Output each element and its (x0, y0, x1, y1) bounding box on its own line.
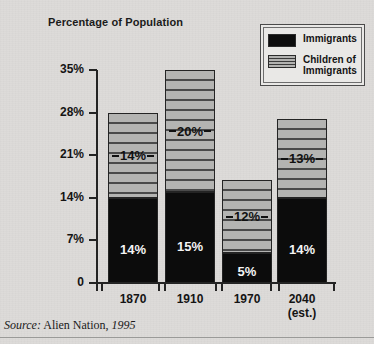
y-tick-label: 35% (40, 62, 84, 76)
x-tick (96, 284, 98, 291)
y-tick (89, 197, 97, 199)
x-tick (158, 284, 160, 291)
bar-value-label: 20% (165, 123, 215, 139)
x-axis-label: 1970 (217, 292, 277, 306)
source-caption: Source: Alien Nation, 1995 (4, 318, 136, 333)
x-tick (101, 284, 103, 291)
y-tick (89, 154, 97, 156)
y-tick (89, 69, 97, 71)
x-axis-label: 1910 (160, 292, 220, 306)
y-tick-label: 28% (40, 105, 84, 119)
bar-value-label: 5% (222, 263, 272, 279)
bar-value-label: 13% (277, 150, 327, 166)
source-prefix: Source: (4, 318, 41, 332)
y-tick-label: 14% (40, 190, 84, 204)
x-axis-label: 1870 (103, 292, 163, 306)
source-year: 1995 (112, 318, 136, 332)
stacked-bar-chart-plot: 07%14%21%28%35% 14%14%15%20%5%12%14%13% … (0, 0, 374, 344)
bar-value-label: 14% (108, 241, 158, 257)
y-tick-label: 21% (40, 147, 84, 161)
bar-value-label: 14% (108, 147, 158, 163)
y-tick-label: 7% (40, 232, 84, 246)
bar-value-label: 15% (165, 238, 215, 254)
x-axis-label-year: 1910 (160, 292, 220, 306)
source-work: Alien Nation, (41, 318, 112, 332)
y-tick (89, 239, 97, 241)
y-tick (89, 112, 97, 114)
x-axis-label-note: (est.) (272, 306, 332, 320)
x-axis-label: 2040(est.) (272, 292, 332, 320)
bottom-divider (0, 337, 374, 338)
bar-segment-immigrants-1910[interactable] (165, 192, 215, 283)
x-axis-label-year: 1870 (103, 292, 163, 306)
x-axis-label-year: 1970 (217, 292, 277, 306)
x-tick (333, 284, 335, 291)
bar-value-label: 12% (222, 208, 272, 224)
y-axis-line (96, 70, 98, 284)
bar-value-label: 14% (277, 241, 327, 257)
x-axis-label-year: 2040 (272, 292, 332, 306)
x-tick (215, 284, 217, 291)
y-tick-label: 0 (40, 275, 84, 289)
